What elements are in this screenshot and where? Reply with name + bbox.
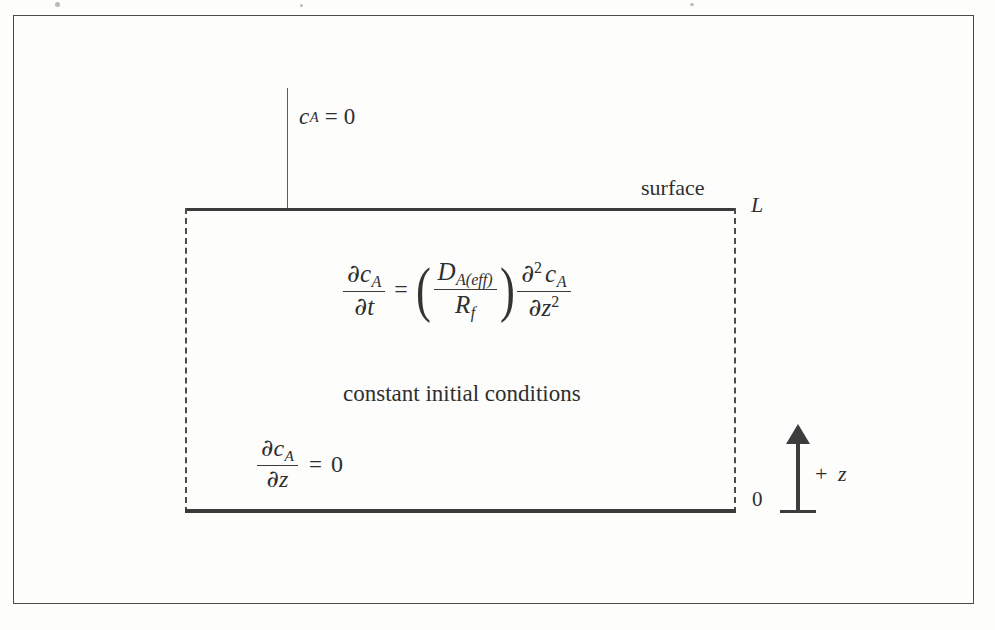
bottom-bc-derivative: ∂cA ∂z [257, 436, 298, 493]
bottom-bc-denominator-symbol: z [279, 466, 288, 492]
coefficient-fraction-bar [434, 289, 497, 290]
z-axis: + z [775, 424, 835, 516]
z-axis-variable: z [838, 461, 847, 486]
lhs-numerator-subscript: A [371, 273, 381, 290]
left-dashed-edge [185, 208, 187, 513]
top-bc-equals: = [325, 104, 338, 130]
rhs-denominator: ∂z2 [525, 293, 564, 321]
rhs-partial: ∂ [521, 259, 534, 288]
lhs-numerator: ∂cA [343, 260, 385, 290]
top-bc-species-subscript: A [309, 109, 319, 126]
bottom-bc-value: 0 [331, 451, 343, 478]
coefficient-denominator-subscript: f [470, 304, 475, 321]
lhs-denominator-symbol: t [367, 293, 374, 320]
lhs-denominator-partial: ∂ [354, 292, 367, 321]
scan-speckle [690, 3, 694, 6]
bottom-bc-partial: ∂ [261, 434, 273, 462]
coefficient-close-paren: ) [499, 264, 514, 315]
top-boundary-leader-line [287, 88, 288, 209]
z-axis-sign: + [815, 461, 827, 486]
rhs-numerator-symbol: c [545, 260, 556, 287]
rhs-denominator-symbol: z [541, 294, 551, 321]
top-boundary-condition-label: cA = 0 [299, 104, 355, 130]
bottom-bc-denominator-partial: ∂ [267, 465, 279, 493]
bottom-bc-equals: = [309, 452, 322, 478]
rhs-denominator-partial: ∂ [529, 293, 542, 322]
lhs-derivative: ∂cA ∂t [343, 260, 385, 320]
right-dashed-edge [734, 208, 736, 513]
surface-label: surface [641, 175, 705, 201]
coefficient-fraction: DA(eff) Rf [434, 258, 497, 322]
bottom-boundary-condition: ∂cA ∂z = 0 [255, 436, 343, 493]
bottom-bc-numerator: ∂cA [257, 436, 298, 464]
depth-label-top: L [751, 192, 763, 218]
coefficient-open-paren: ( [416, 264, 431, 315]
rhs-numerator-subscript: A [556, 273, 566, 290]
scan-speckle [300, 4, 303, 7]
z-axis-shaft [796, 438, 800, 512]
bottom-bc-numerator-subscript: A [284, 447, 294, 464]
z-axis-label: + z [815, 461, 846, 487]
governing-equation: ∂cA ∂t = ( DA(eff) Rf ) ∂2cA ∂z2 [341, 258, 573, 322]
lhs-denominator: ∂t [350, 293, 378, 320]
top-bc-concentration-symbol: c [299, 104, 309, 130]
coefficient-denominator: Rf [451, 291, 479, 321]
coefficient-numerator: DA(eff) [434, 258, 497, 288]
lhs-partial: ∂ [347, 259, 360, 288]
rhs-fraction-bar [517, 291, 570, 292]
base-boundary-edge [185, 509, 736, 513]
figure-canvas: cA = 0 ∂cA ∂t = ( DA(eff) Rf [0, 0, 995, 630]
bottom-bc-denominator: ∂z [263, 467, 293, 493]
lhs-numerator-symbol: c [360, 260, 371, 287]
top-bc-value: 0 [344, 104, 356, 130]
scan-speckle [55, 2, 60, 7]
equation-equals: = [394, 276, 408, 303]
rhs-denominator-exponent: 2 [551, 293, 559, 310]
coefficient-denominator-symbol: R [455, 291, 470, 318]
rhs-numerator: ∂2cA [517, 259, 570, 290]
bottom-bc-numerator-symbol: c [273, 435, 284, 461]
rhs-order-exponent: 2 [534, 259, 542, 276]
depth-label-bottom: 0 [752, 487, 763, 512]
rhs-second-derivative: ∂2cA ∂z2 [517, 259, 570, 321]
surface-boundary-edge [185, 208, 736, 211]
z-axis-origin-tick [780, 510, 816, 513]
coefficient-numerator-subscript: A(eff) [456, 271, 493, 288]
initial-conditions-note: constant initial conditions [343, 381, 581, 407]
coefficient-numerator-symbol: D [438, 258, 456, 285]
